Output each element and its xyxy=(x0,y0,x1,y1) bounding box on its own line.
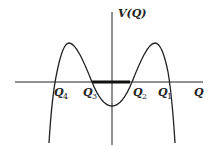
potential-diagram: V(Q) Q Q 4 Q 3 Q 2 Q 1 xyxy=(0,0,211,150)
svg-text:3: 3 xyxy=(92,92,97,101)
root-label-q2: Q 2 xyxy=(133,86,147,101)
y-axis-label: V(Q) xyxy=(118,7,147,20)
svg-text:2: 2 xyxy=(142,92,147,101)
x-axis-label: Q xyxy=(194,86,204,99)
root-label-q4: Q 4 xyxy=(54,86,68,101)
svg-text:1: 1 xyxy=(167,92,172,101)
svg-text:4: 4 xyxy=(63,92,68,101)
